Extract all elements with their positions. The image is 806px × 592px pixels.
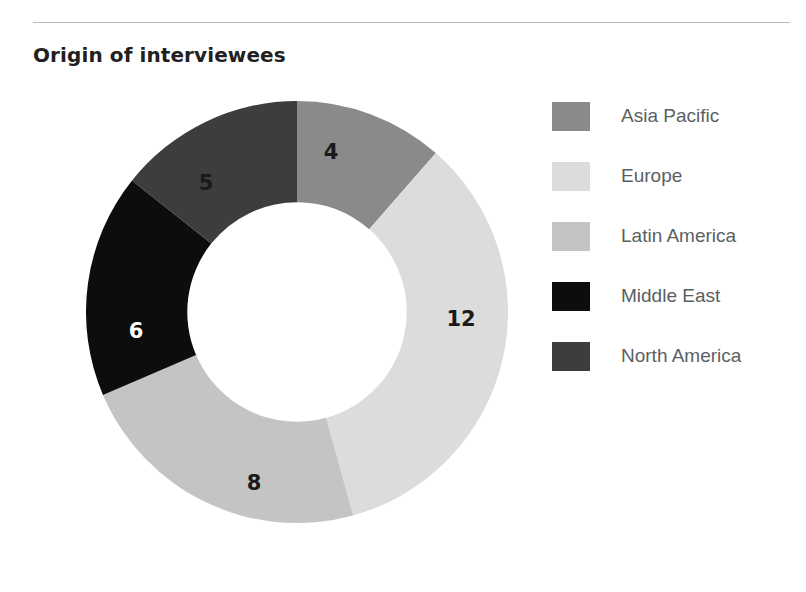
chart-legend: Asia PacificEuropeLatin AmericaMiddle Ea… bbox=[552, 86, 792, 386]
legend-item-latin-america[interactable]: Latin America bbox=[552, 206, 792, 266]
legend-item-europe[interactable]: Europe bbox=[552, 146, 792, 206]
legend-swatch-north-america bbox=[552, 342, 590, 371]
donut-chart-svg: 412865 bbox=[86, 101, 508, 523]
legend-swatch-middle-east bbox=[552, 282, 590, 311]
donut-chart: 412865 bbox=[86, 101, 508, 523]
legend-label-middle-east: Middle East bbox=[621, 285, 720, 307]
slice-value-label-middle-east: 6 bbox=[129, 319, 144, 343]
legend-item-middle-east[interactable]: Middle East bbox=[552, 266, 792, 326]
slice-value-label-latin-america: 8 bbox=[247, 471, 262, 495]
legend-item-north-america[interactable]: North America bbox=[552, 326, 792, 386]
legend-label-latin-america: Latin America bbox=[621, 225, 736, 247]
donut-slice-group bbox=[86, 101, 508, 523]
legend-label-asia-pacific: Asia Pacific bbox=[621, 105, 719, 127]
top-divider-rule bbox=[33, 22, 790, 23]
donut-slice-latin-america[interactable] bbox=[103, 355, 353, 523]
legend-swatch-asia-pacific bbox=[552, 102, 590, 131]
slice-value-label-north-america: 5 bbox=[199, 171, 214, 195]
slice-value-label-europe: 12 bbox=[446, 307, 475, 331]
chart-page: Origin of interviewees 412865 Asia Pacif… bbox=[0, 0, 806, 592]
legend-item-asia-pacific[interactable]: Asia Pacific bbox=[552, 86, 792, 146]
slice-value-label-asia-pacific: 4 bbox=[324, 140, 339, 164]
legend-label-europe: Europe bbox=[621, 165, 682, 187]
legend-swatch-europe bbox=[552, 162, 590, 191]
page-title: Origin of interviewees bbox=[33, 43, 286, 67]
legend-label-north-america: North America bbox=[621, 345, 741, 367]
legend-swatch-latin-america bbox=[552, 222, 590, 251]
